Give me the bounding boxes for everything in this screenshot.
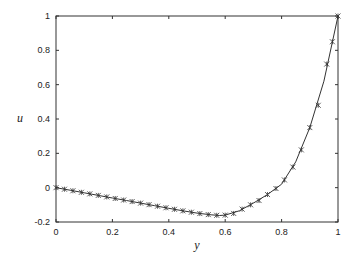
y-tick-label: 0.2 bbox=[37, 148, 50, 158]
y-axis-ticks: -0.200.20.40.60.81 bbox=[34, 11, 338, 227]
y-tick-label: -0.2 bbox=[34, 217, 50, 227]
y-tick-label: 0.6 bbox=[37, 80, 50, 90]
data-markers bbox=[54, 14, 341, 218]
y-axis-label: u bbox=[17, 111, 23, 125]
x-tick-label: 0 bbox=[53, 227, 58, 237]
x-tick-label: 0.8 bbox=[275, 227, 288, 237]
plot-area-frame bbox=[56, 16, 338, 222]
y-tick-label: 0.8 bbox=[37, 45, 50, 55]
x-tick-label: 0.4 bbox=[163, 227, 176, 237]
y-tick-label: 0.4 bbox=[37, 114, 50, 124]
x-tick-label: 1 bbox=[335, 227, 340, 237]
x-tick-label: 0.6 bbox=[219, 227, 232, 237]
x-tick-label: 0.2 bbox=[106, 227, 119, 237]
y-tick-label: 1 bbox=[45, 11, 50, 21]
chart: 00.20.40.60.81 -0.200.20.40.60.81 y u bbox=[0, 0, 357, 262]
x-axis-label: y bbox=[193, 238, 200, 252]
y-tick-label: 0 bbox=[45, 183, 50, 193]
x-axis-ticks: 00.20.40.60.81 bbox=[53, 16, 340, 237]
data-line bbox=[56, 16, 338, 216]
